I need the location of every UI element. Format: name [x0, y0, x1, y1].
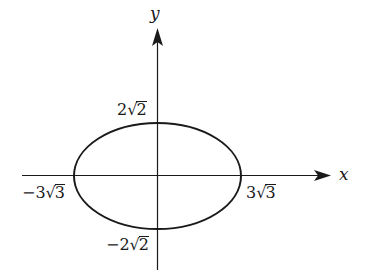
x-intercept-positive-label: 3√3	[246, 184, 276, 201]
y-intercept-negative-label: −2√2	[106, 236, 149, 253]
coef: 2	[117, 100, 127, 119]
radicand: 2	[136, 101, 146, 118]
radicand: 3	[265, 184, 275, 201]
radicand: 2	[139, 236, 149, 253]
coef: −2	[106, 235, 130, 254]
radicand: 3	[55, 184, 65, 201]
coef: −3	[22, 183, 46, 202]
x-intercept-negative-label: −3√3	[22, 184, 65, 201]
y-intercept-positive-label: 2√2	[117, 101, 147, 118]
x-axis-label: x	[339, 166, 349, 183]
diagram-graphics	[0, 0, 365, 275]
ellipse-diagram: y x 2√2 −2√2 −3√3 3√3	[0, 0, 365, 275]
y-axis-label: y	[150, 5, 160, 22]
coef: 3	[246, 183, 256, 202]
